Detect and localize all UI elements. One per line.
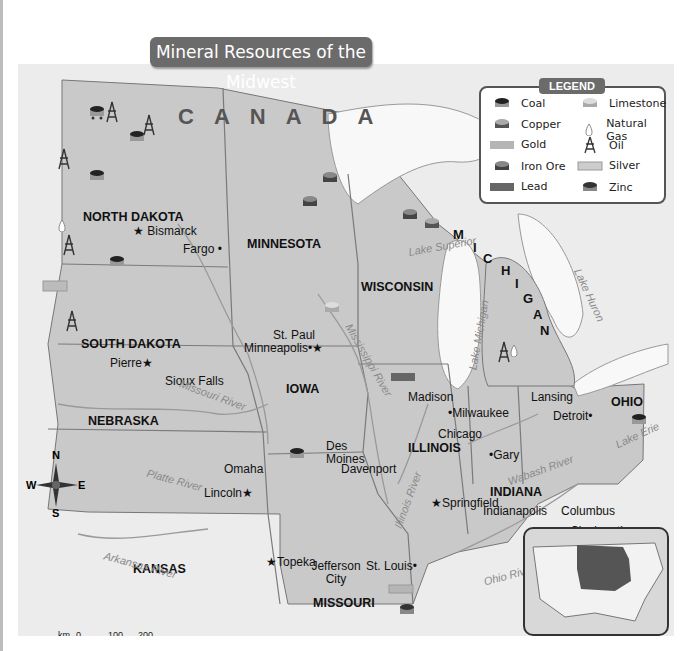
state-label-south-dakota: SOUTH DAKOTA (81, 337, 181, 351)
legend-title: LEGEND (539, 78, 605, 94)
city-jefferson-city: Jefferson City (308, 560, 364, 586)
scale-bar: km 0 100 200 mi 0 100 200 (58, 630, 178, 636)
state-label-wisconsin: WISCONSIN (361, 280, 433, 294)
coal-cart-icon (489, 96, 515, 110)
city-pierre: Pierre★ (110, 356, 153, 370)
oil-derrick-icon (58, 148, 70, 170)
state-label-ohio: OHIO (611, 395, 643, 409)
city-chicago: Chicago (438, 427, 482, 441)
city-omaha: Omaha (224, 462, 263, 476)
map-legend: LEGEND Coal Copper Gold Iron Ore Lead Li… (479, 86, 666, 204)
gold-bar-icon (388, 583, 414, 595)
lead-bar-icon (390, 371, 416, 383)
city-bismarck: ★ Bismarck (133, 224, 197, 238)
coal-cart-icon (128, 129, 146, 145)
state-label-missouri: MISSOURI (313, 596, 375, 610)
zinc-cart-icon (398, 602, 416, 618)
iron-ore-cart-icon (321, 170, 339, 186)
legend-item-coal: Coal (489, 96, 545, 110)
legend-item-lead: Lead (489, 180, 547, 193)
us-outline-map (525, 529, 667, 634)
copper-cart-icon (423, 216, 441, 232)
coal-cart-icon (88, 168, 106, 184)
city-madison: Madison (408, 390, 453, 404)
state-label-illinois: ILLINOIS (408, 441, 461, 455)
silver-bar-icon (577, 161, 603, 171)
coal-cart-icon (88, 104, 106, 120)
state-label-iowa: IOWA (286, 382, 319, 396)
state-label-michigan-n: N (540, 323, 549, 338)
state-label-minnesota: MINNESOTA (247, 237, 321, 251)
iron-ore-cart-icon (489, 159, 515, 173)
gold-bar-icon (489, 140, 515, 150)
compass-n: N (52, 449, 60, 461)
iron-ore-cart-icon (301, 194, 319, 210)
legend-item-zinc: Zinc (577, 180, 633, 194)
city-minneapolis: Minneapolis•★ (244, 341, 323, 355)
coal-cart-icon (288, 446, 306, 462)
scale-km-200: 200 (138, 630, 153, 636)
oil-derrick-icon (63, 234, 75, 256)
lead-bar-icon (489, 182, 515, 192)
limestone-cart-icon (323, 300, 341, 316)
midwest-highlight (577, 545, 631, 591)
compass-rose: N S E W (26, 449, 86, 519)
state-label-north-dakota: NORTH DAKOTA (83, 210, 183, 224)
oil-derrick-icon (577, 136, 603, 154)
city-davenport: Davenport (341, 462, 396, 476)
scale-km-label: km (58, 630, 70, 636)
scale-km-100: 100 (108, 630, 123, 636)
zinc-cart-icon (577, 180, 603, 194)
legend-item-copper: Copper (489, 117, 561, 131)
oil-derrick-icon (498, 341, 510, 363)
city-detroit: Detroit• (553, 409, 593, 423)
copper-cart-icon (489, 117, 515, 131)
state-label-nebraska: NEBRASKA (88, 414, 159, 428)
compass-e: E (78, 479, 85, 491)
limestone-cart-icon (577, 96, 603, 110)
state-label-michigan-c: C (483, 251, 492, 266)
iron-ore-cart-icon (401, 207, 419, 223)
page-edge (0, 0, 3, 651)
legend-item-iron-ore: Iron Ore (489, 159, 565, 173)
state-label-michigan-h: H (501, 263, 510, 278)
city-lansing: Lansing (531, 390, 573, 404)
map-title: Mineral Resources of the Midwest (150, 37, 372, 67)
compass-w: W (26, 479, 36, 491)
city-st-louis: St. Louis• (366, 559, 417, 573)
scale-km-0: 0 (76, 630, 81, 636)
legend-item-gold: Gold (489, 138, 546, 151)
city-milwaukee: •Milwaukee (448, 406, 509, 420)
city-gary: •Gary (489, 448, 519, 462)
city-springfield: ★Springfield (431, 496, 499, 510)
city-st-paul: St. Paul (273, 328, 315, 342)
oil-derrick-icon (106, 101, 118, 123)
compass-s: S (52, 507, 59, 519)
coal-cart-icon (108, 254, 126, 270)
state-label-michigan-a: A (533, 307, 542, 322)
legend-item-limestone: Limestone (577, 96, 666, 110)
state-label-michigan-g: G (523, 291, 533, 306)
state-label-michigan-i2: I (515, 276, 519, 291)
natural-gas-flame-icon (510, 345, 518, 357)
legend-item-oil: Oil (577, 136, 624, 154)
natural-gas-flame-icon (577, 124, 600, 136)
legend-item-silver: Silver (577, 159, 640, 172)
us-locator-inset-map (523, 527, 669, 636)
natural-gas-flame-icon (58, 220, 66, 232)
oil-derrick-icon (66, 310, 78, 332)
city-columbus: Columbus (561, 504, 615, 518)
city-fargo: Fargo • (183, 242, 222, 256)
city-lincoln: Lincoln★ (204, 486, 253, 500)
country-label-canada: CANADA (178, 104, 393, 130)
coal-cart-icon (630, 412, 648, 428)
silver-bar-icon (42, 279, 68, 293)
city-wichita: Wichita (232, 635, 271, 636)
